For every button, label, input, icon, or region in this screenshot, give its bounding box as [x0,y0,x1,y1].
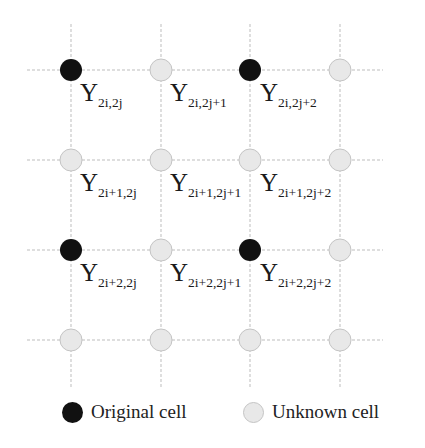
unknown-cell-node [60,149,82,171]
original-cell-node [239,59,261,81]
cell-label-y-2i2-2j1: Y2i+2,2j+1 [170,260,241,285]
unknown-cell-node [329,329,351,351]
cell-label-y-2i2-2j2: Y2i+2,2j+2 [260,260,331,285]
legend: Original cell Unknown cell [0,398,425,426]
original-cell-node [239,239,261,261]
legend-item-unknown: Unknown cell [243,398,379,426]
cell-label-y-2i1-2j: Y2i+1,2j [80,170,137,195]
unknown-cell-node [329,239,351,261]
legend-unknown-label: Unknown cell [272,401,379,423]
legend-original-label: Original cell [91,401,187,423]
cell-label-y-2i2-2j: Y2i+2,2j [80,260,137,285]
cell-label-y-2i1-2j1: Y2i+1,2j+1 [170,170,241,195]
cell-label-y-2i-2j: Y2i,2j [80,80,122,105]
unknown-cell-node [329,59,351,81]
unknown-cell-node [150,59,172,81]
unknown-cell-node [150,149,172,171]
unknown-cell-node [60,329,82,351]
original-cell-node [60,59,82,81]
cell-label-y-2i-2j2: Y2i,2j+2 [260,80,317,105]
grid-diagram [0,0,425,448]
unknown-cell-node [239,329,261,351]
unknown-cell-node [150,329,172,351]
original-cell-dot-icon [62,402,83,423]
cell-label-y-2i-2j1: Y2i,2j+1 [170,80,227,105]
unknown-cell-node [150,239,172,261]
original-cell-node [60,239,82,261]
cell-label-y-2i1-2j2: Y2i+1,2j+2 [260,170,331,195]
unknown-cell-node [239,149,261,171]
unknown-cell-node [329,149,351,171]
unknown-cell-dot-icon [243,402,264,423]
legend-item-original: Original cell [62,398,187,426]
